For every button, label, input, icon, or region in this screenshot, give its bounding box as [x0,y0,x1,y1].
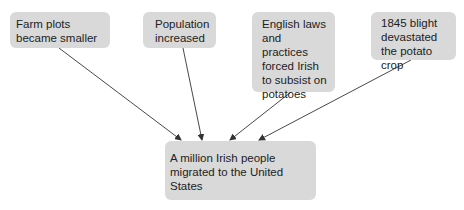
cause-box-blight: 1845 blight devastated the potato crop [371,12,456,60]
cause-box-english-laws: English laws and practices forced Irish … [252,12,335,92]
effect-label: A million Irish people migrated to the U… [170,151,308,193]
arrow-cause-2 [183,48,202,140]
cause-label: Population increased [155,17,210,45]
cause-box-farm-plots: Farm plots became smaller [10,12,110,48]
cause-box-population: Population increased [143,12,216,48]
cause-label: English laws and practices forced Irish … [262,17,329,101]
cause-label: 1845 blight devastated the potato crop [381,16,451,72]
cause-label: Farm plots became smaller [16,17,104,45]
arrow-cause-1 [59,48,181,140]
effect-box-migration: A million Irish people migrated to the U… [165,141,316,200]
